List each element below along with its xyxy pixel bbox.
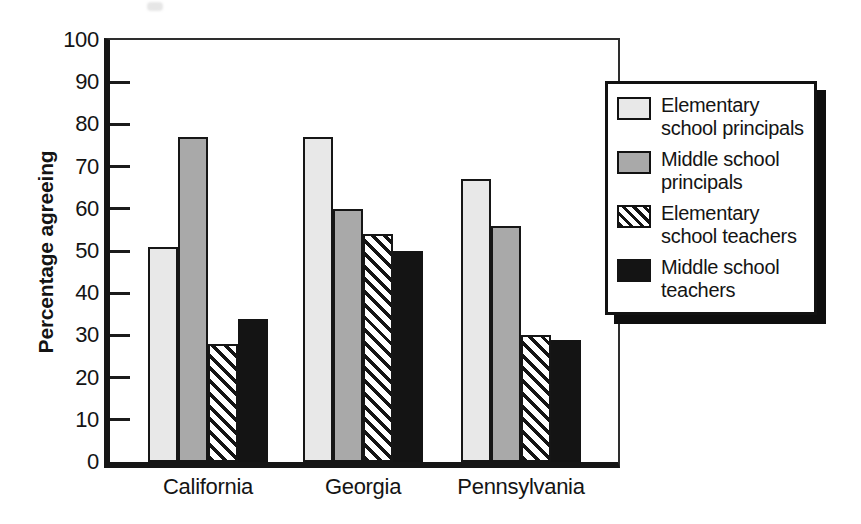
legend-swatch-diagonal-hatch xyxy=(617,205,651,228)
x-axis-label-california: California xyxy=(118,474,298,500)
y-tick-mark xyxy=(110,123,130,126)
y-tick-mark xyxy=(110,250,130,253)
legend-item: Middle schoolteachers xyxy=(617,256,805,302)
y-tick-mark xyxy=(110,292,130,295)
legend-item: Elementaryschool principals xyxy=(617,94,805,140)
y-axis-tick-label: 0 xyxy=(0,450,99,474)
bar-pennsylvania-middle-school-teachers xyxy=(551,340,581,462)
legend-item: Elementaryschool teachers xyxy=(617,202,805,248)
x-axis-label-pennsylvania: Pennsylvania xyxy=(431,474,611,500)
legend-swatch-solid-medium-gray xyxy=(617,151,651,174)
y-axis-tick-label: 100 xyxy=(0,28,99,52)
y-axis-tick-label: 70 xyxy=(0,155,99,179)
y-axis-tick-label: 40 xyxy=(0,281,99,305)
x-axis-label-georgia: Georgia xyxy=(273,474,453,500)
bar-georgia-middle-school-teachers xyxy=(393,251,423,462)
bar-california-middle-school-teachers xyxy=(238,319,268,462)
bar-california-elementary-school-principals xyxy=(148,247,178,462)
y-tick-mark xyxy=(110,81,130,84)
bar-pennsylvania-elementary-school-principals xyxy=(461,179,491,462)
y-axis-tick-label: 90 xyxy=(0,70,99,94)
plot-inner xyxy=(110,40,618,462)
bar-chart-figure: Percentage agreeing 01020304050607080901… xyxy=(0,0,861,524)
legend-swatch-solid-black xyxy=(617,259,651,282)
bar-georgia-middle-school-principals xyxy=(333,209,363,462)
y-axis-tick-label: 50 xyxy=(0,239,99,263)
y-tick-mark xyxy=(110,165,130,168)
bar-georgia-elementary-school-teachers xyxy=(363,234,393,462)
legend-item: Middle schoolprincipals xyxy=(617,148,805,194)
legend-swatch-solid-light-gray xyxy=(617,97,651,120)
y-tick-mark xyxy=(110,334,130,337)
legend-label: Elementaryschool principals xyxy=(661,94,804,140)
plot-area xyxy=(104,38,620,468)
legend-label: Middle schoolprincipals xyxy=(661,148,779,194)
x-axis-category-labels: CaliforniaGeorgiaPennsylvania xyxy=(110,474,618,506)
y-tick-mark xyxy=(110,207,130,210)
y-axis-tick-label: 30 xyxy=(0,323,99,347)
y-axis-tick-label: 10 xyxy=(0,408,99,432)
y-tick-mark xyxy=(110,376,130,379)
y-axis-tick-label: 80 xyxy=(0,112,99,136)
legend-label: Middle schoolteachers xyxy=(661,256,779,302)
legend-label: Elementaryschool teachers xyxy=(661,202,797,248)
legend: Elementaryschool principalsMiddle school… xyxy=(605,81,817,315)
y-tick-mark xyxy=(110,418,130,421)
bar-california-middle-school-principals xyxy=(178,137,208,462)
y-axis-tick-label: 60 xyxy=(0,197,99,221)
bar-pennsylvania-middle-school-principals xyxy=(491,226,521,462)
bar-georgia-elementary-school-principals xyxy=(303,137,333,462)
bar-california-elementary-school-teachers xyxy=(208,344,238,462)
y-axis-tick-label: 20 xyxy=(0,366,99,390)
y-axis-tick-labels: 0102030405060708090100 xyxy=(0,40,99,462)
bar-pennsylvania-elementary-school-teachers xyxy=(521,335,551,462)
scan-artifact xyxy=(147,2,163,11)
